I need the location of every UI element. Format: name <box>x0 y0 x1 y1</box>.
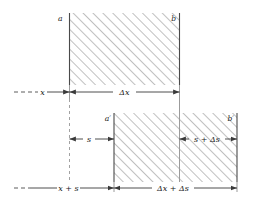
corner-label-b: b <box>171 14 176 23</box>
dim-label-x: x <box>40 88 45 97</box>
dim-label-s: s <box>87 135 91 144</box>
dimension-row-bottom: x + s Δx + Δs <box>14 184 237 193</box>
figure-canvas: a b x Δx a′ b′ <box>0 0 261 200</box>
lower-block-hatch <box>114 113 237 182</box>
corner-label-b-prime: b′ <box>227 114 234 123</box>
dim-label-x-plus-s: x + s <box>58 184 78 193</box>
corner-label-a: a <box>58 14 63 23</box>
corner-label-a-prime: a′ <box>105 114 112 123</box>
lower-block-group <box>114 113 237 182</box>
dim-label-s-plus-delta-s: s + Δs <box>194 135 220 144</box>
dim-label-delta-x-plus-delta-s: Δx + Δs <box>156 184 189 193</box>
top-block-group <box>70 13 180 85</box>
displacement-figure: a b x Δx a′ b′ <box>0 0 261 200</box>
top-block-hatch <box>70 13 180 85</box>
dimension-row-top: x Δx <box>14 88 180 97</box>
dim-label-delta-x: Δx <box>118 88 130 97</box>
